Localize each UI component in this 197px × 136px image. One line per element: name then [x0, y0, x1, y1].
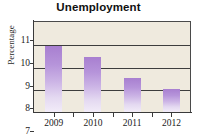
- unemployment-bar-chart: Unemployment Percentage 7891011 20092010…: [0, 0, 197, 136]
- x-axis-tick: [132, 113, 133, 117]
- bar-2012: [163, 89, 180, 112]
- bar-2010: [84, 57, 101, 112]
- x-axis-tick-label: 2012: [162, 118, 181, 128]
- bar-2009: [45, 46, 62, 112]
- x-axis-tick: [54, 113, 55, 117]
- x-axis-minor-tick: [73, 113, 74, 117]
- y-axis-tick-label: 9: [25, 81, 30, 91]
- x-axis-tick: [93, 113, 94, 117]
- chart-title: Unemployment: [0, 1, 197, 13]
- x-axis-minor-tick: [113, 113, 114, 117]
- bar-2011: [124, 78, 141, 112]
- y-axis-tick: [30, 63, 34, 64]
- x-axis-tick-label: 2011: [123, 118, 142, 128]
- x-axis-tick-label: 2009: [44, 118, 63, 128]
- y-axis-tick-label: 11: [21, 35, 30, 45]
- y-axis-tick: [30, 86, 34, 87]
- x-axis: 2009201020112012: [33, 112, 192, 113]
- x-axis-tick: [171, 113, 172, 117]
- y-axis: 7891011: [33, 20, 34, 113]
- y-axis-tick-label: 10: [21, 58, 31, 68]
- y-axis-tick: [30, 40, 34, 41]
- x-axis-tick-label: 2010: [83, 118, 102, 128]
- y-axis-tick: [30, 131, 34, 132]
- y-axis-tick-label: 8: [25, 103, 30, 113]
- y-axis-tick: [30, 108, 34, 109]
- y-axis-tick-label: 7: [25, 126, 30, 136]
- x-axis-minor-tick: [152, 113, 153, 117]
- plot-area: [34, 21, 191, 112]
- y-axis-label: Percentage: [6, 9, 16, 81]
